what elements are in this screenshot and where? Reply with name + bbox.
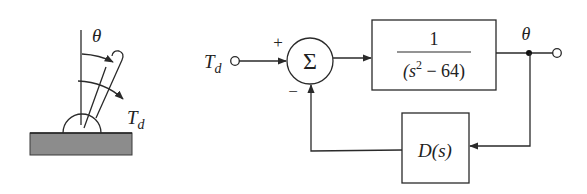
sum-symbol: Σ [303,48,317,74]
theta-arc-arrow [82,54,113,62]
pendulum-sketch: θ Td [30,25,146,155]
diagram-canvas: θ Td Td Σ + − 1 (s2 − 64) θ [0,0,587,194]
controller-label: D(s) [417,140,452,162]
pendulum-torque-label: Td [127,107,146,132]
block-diagram: Td Σ + − 1 (s2 − 64) θ D(s) [204,20,561,183]
sum-plus-sign: + [273,33,283,52]
plant-denominator: (s2 − 64) [403,58,465,82]
pivot-dome [63,114,101,133]
feedback-line-left [311,85,402,151]
input-terminal [231,57,240,66]
plant-numerator: 1 [430,29,439,49]
output-junction-dot [526,50,532,56]
pendulum-theta-label: θ [92,25,101,46]
feedback-line-right [470,53,530,146]
pendulum-rod [84,51,123,128]
output-terminal [553,49,562,58]
input-label: Td [204,51,223,76]
sum-minus-sign: − [288,82,298,101]
output-theta-label: θ [522,24,531,44]
ground-block [30,133,132,155]
